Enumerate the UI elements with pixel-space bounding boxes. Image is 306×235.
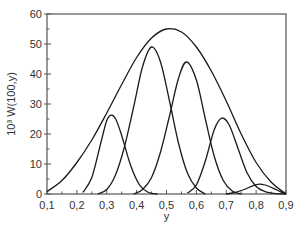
y-axis-label: 10³ W(100,y): [5, 72, 17, 136]
series-peak-2: [98, 47, 206, 194]
x-tick-label: 0,1: [39, 199, 54, 211]
x-tick-label: 0,3: [99, 199, 114, 211]
x-tick-label: 0,4: [129, 199, 144, 211]
y-axis-tick-labels: 0102030405060: [30, 8, 42, 200]
y-tick-label: 60: [30, 8, 42, 20]
x-tick-label: 0,9: [278, 199, 293, 211]
plot-frame: [47, 14, 286, 194]
x-tick-label: 0,8: [248, 199, 263, 211]
x-axis-label: y: [164, 210, 170, 222]
x-tick-label: 0,7: [219, 199, 234, 211]
chart: 0,10,20,30,40,50,60,70,80,9 010203040506…: [0, 0, 306, 235]
y-tick-label: 20: [30, 128, 42, 140]
y-tick-label: 40: [30, 68, 42, 80]
y-tick-label: 30: [30, 98, 42, 110]
y-tick-label: 50: [30, 38, 42, 50]
data-series: [47, 29, 286, 194]
y-tick-label: 0: [36, 188, 42, 200]
series-peak-1: [83, 115, 158, 194]
y-tick-label: 10: [30, 158, 42, 170]
x-tick-label: 0,6: [189, 199, 204, 211]
series-envelope: [47, 29, 286, 194]
x-tick-label: 0,2: [69, 199, 84, 211]
